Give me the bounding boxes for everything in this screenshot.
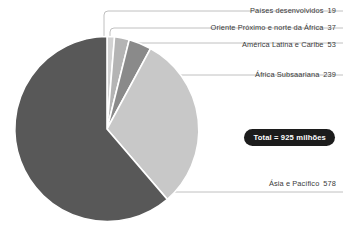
callout-paises-desenvolvidos: Países desenvolvidos19: [250, 6, 336, 15]
callout-label-text: África Subsaariana: [255, 70, 319, 79]
callout-label-value: 19: [328, 6, 336, 15]
callout-label-value: 239: [323, 70, 336, 79]
pie-chart-figure: Países desenvolvidos19 Oriente Próximo e…: [0, 0, 343, 228]
pie-slices: [15, 37, 199, 222]
callout-label-value: 53: [328, 40, 336, 49]
callout-label-text: Ásia e Pacífico: [269, 179, 319, 188]
callout-label-text: Países desenvolvidos: [250, 6, 324, 15]
callout-label-value: 578: [323, 179, 336, 188]
pie-chart-canvas: [0, 0, 343, 228]
callout-oriente-proximo: Oriente Próximo e norte da África37: [211, 23, 336, 32]
callout-label-value: 37: [328, 23, 336, 32]
callout-africa-subsaariana: África Subsaariana239: [255, 70, 336, 79]
total-badge: Total = 925 milhões: [244, 129, 335, 146]
callout-america-latina: América Latina e Caribe53: [242, 40, 336, 49]
callout-asia-pacifico: Ásia e Pacífico578: [269, 179, 336, 188]
callout-label-text: América Latina e Caribe: [242, 40, 324, 49]
callout-label-text: Oriente Próximo e norte da África: [211, 23, 324, 32]
